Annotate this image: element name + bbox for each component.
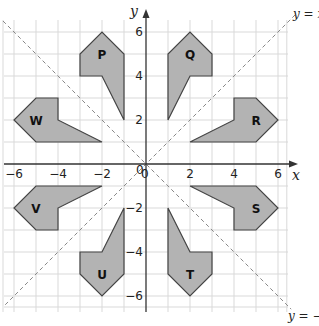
shape-label: U: [97, 268, 107, 282]
x-tick-label: 2: [186, 167, 194, 181]
y-tick-label: 2: [135, 113, 143, 127]
reflection-lines: [3, 14, 296, 309]
y-axis-label: y: [129, 3, 139, 19]
shape-label: R: [251, 114, 260, 128]
y-tick-label: −2: [125, 201, 143, 215]
origin-label-below: 0: [141, 167, 149, 181]
shape-label: Q: [185, 48, 195, 62]
line-label-y-equals-neg-x: y = −x: [287, 309, 319, 323]
y-axis-arrow-icon: [143, 9, 150, 18]
shape-label: W: [29, 114, 42, 128]
coordinate-grid-diagram: PQRSTUVW x y 0 0 −6−4−2246642−2−4−6 y = …: [0, 0, 319, 326]
y-tick-label: −4: [125, 245, 143, 259]
line-label-y-equals-x: y = x: [292, 7, 319, 21]
x-tick-label: −4: [49, 167, 67, 181]
shape-label: S: [252, 202, 261, 216]
x-tick-label: 4: [230, 167, 238, 181]
line-y-equals-neg-x: [3, 21, 291, 309]
shape-label: V: [31, 202, 41, 216]
y-tick-label: −6: [125, 289, 143, 303]
x-tick-label: 6: [274, 167, 282, 181]
y-tick-label: 4: [135, 69, 143, 83]
y-tick-label: 6: [135, 25, 143, 39]
line-y-equals-x: [5, 14, 295, 304]
shape-label: T: [186, 268, 195, 282]
x-tick-label: −2: [93, 167, 111, 181]
shape-label: P: [98, 48, 107, 62]
x-axis-label: x: [292, 167, 300, 183]
x-tick-label: −6: [5, 167, 23, 181]
